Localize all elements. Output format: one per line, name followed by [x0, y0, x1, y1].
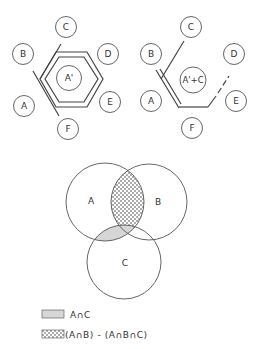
right-diagram: C B D A E F A'+C: [141, 17, 247, 139]
set-label-b: B: [155, 197, 161, 207]
node-f: F: [58, 119, 79, 140]
node-a-prime-plus-c: A'+C: [180, 67, 206, 93]
venn-diagram: A B C: [66, 163, 187, 299]
legend: A∩C (A∩B) - (A∩B∩C): [42, 310, 148, 340]
bond-line: [208, 96, 216, 107]
bond-line: [160, 69, 181, 104]
node-e: E: [226, 91, 247, 112]
node-b: B: [13, 44, 34, 65]
region-a-intersect-b-minus-c: [87, 164, 187, 299]
svg-text:E: E: [107, 97, 113, 107]
legend-swatch-dotted: [42, 330, 64, 338]
set-label-a: A: [88, 196, 95, 206]
legend-label: (A∩B) - (A∩B∩C): [65, 330, 148, 340]
set-label-c: C: [122, 258, 128, 268]
legend-swatch-gray: [42, 310, 64, 318]
node-c: C: [181, 17, 202, 38]
svg-text:A: A: [148, 96, 155, 106]
node-a-prime: A': [57, 66, 82, 91]
node-a: A: [14, 96, 35, 117]
svg-text:A'+C: A'+C: [182, 75, 203, 85]
legend-item-a-intersect-c: A∩C: [42, 310, 91, 320]
svg-text:A: A: [21, 101, 28, 111]
left-diagram: C B D A E F A': [13, 17, 121, 140]
svg-text:C: C: [63, 22, 69, 32]
svg-text:B: B: [20, 49, 26, 59]
node-d: D: [98, 44, 119, 65]
node-f: F: [182, 118, 203, 139]
bond-line: [161, 41, 184, 79]
svg-text:D: D: [231, 49, 238, 59]
node-a: A: [141, 91, 162, 112]
svg-text:E: E: [233, 96, 239, 106]
svg-text:C: C: [188, 22, 194, 32]
node-d: D: [224, 44, 245, 65]
legend-label: A∩C: [70, 310, 91, 320]
svg-text:F: F: [189, 123, 194, 133]
svg-text:A': A': [65, 73, 74, 83]
node-e: E: [100, 92, 121, 113]
dashed-bond-line: [218, 76, 229, 93]
figure-canvas: C B D A E F A': [0, 0, 255, 349]
svg-text:B: B: [148, 49, 154, 59]
svg-text:D: D: [105, 49, 112, 59]
legend-item-a-intersect-b-minus-abc: (A∩B) - (A∩B∩C): [42, 330, 148, 340]
node-c: C: [56, 17, 77, 38]
svg-text:F: F: [65, 124, 70, 134]
node-b: B: [141, 44, 162, 65]
